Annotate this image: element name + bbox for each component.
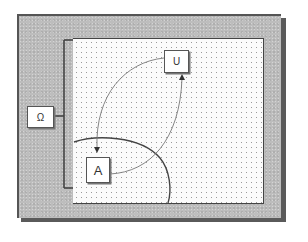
omega-label: Ω xyxy=(37,112,44,123)
omega-label-box: Ω xyxy=(27,106,54,128)
a-label-box: A xyxy=(86,157,110,183)
diagram-canvas: Ω U A xyxy=(0,0,308,242)
u-label-box: U xyxy=(164,50,189,73)
u-label: U xyxy=(173,56,180,67)
a-label: A xyxy=(94,163,103,178)
